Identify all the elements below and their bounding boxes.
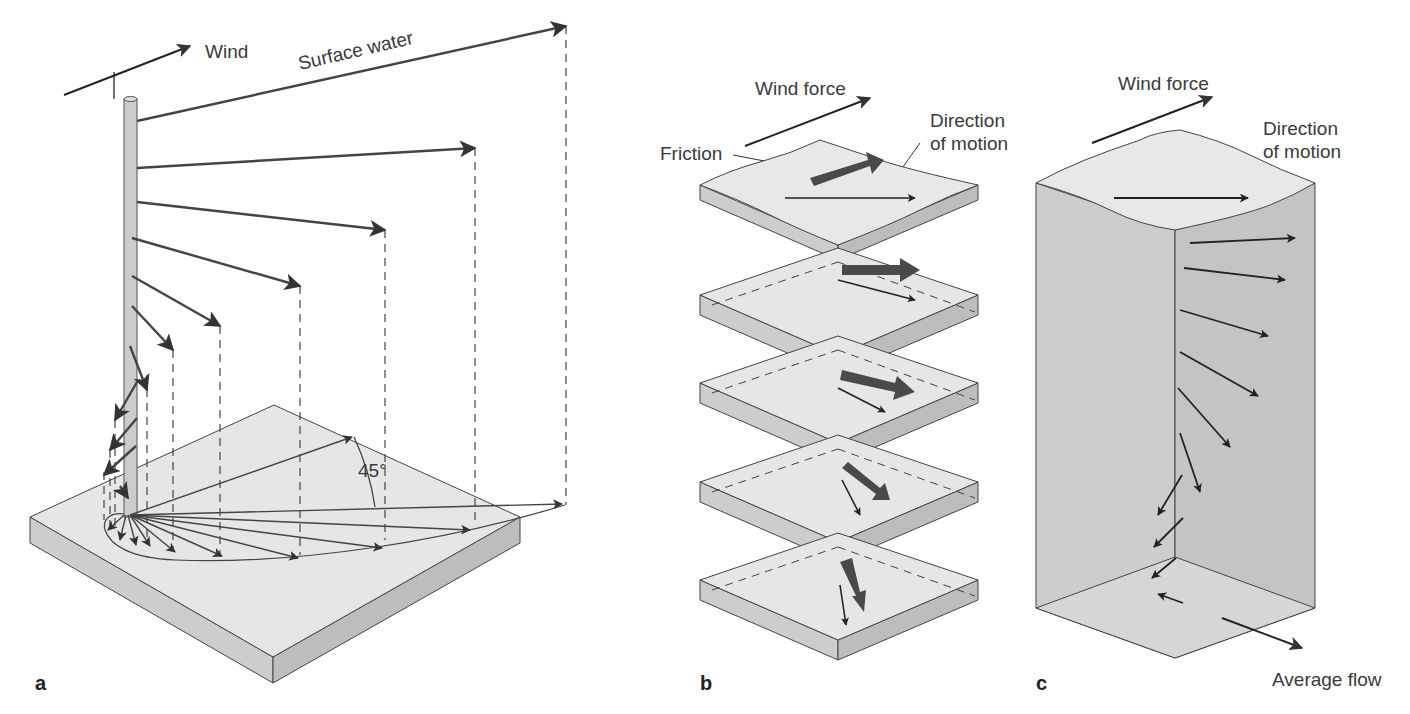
ekman-spiral-figure: Wind Surface water (0, 0, 1410, 714)
panel-letter-c: c (1036, 672, 1047, 694)
wind-arrow (64, 46, 190, 95)
wind-force-arrow-b (745, 98, 870, 146)
surface-water-label: Surface water (296, 27, 416, 74)
panel-c: Wind force Direction of motion Average f… (1036, 73, 1382, 694)
direction-label-b-1: Direction (930, 110, 1005, 131)
ocean-slab (30, 405, 520, 683)
panel-letter-b: b (700, 672, 712, 694)
wind-force-label-b: Wind force (755, 78, 846, 99)
panel-letter-a: a (35, 672, 47, 694)
layer-1 (700, 140, 978, 260)
panel-b: Wind force Friction Direction of motion (660, 78, 1008, 694)
direction-label-c-1: Direction (1263, 118, 1338, 139)
angle-label: 45° (358, 460, 387, 481)
wind-label: Wind (205, 41, 248, 62)
layer-5 (700, 533, 978, 660)
friction-label: Friction (660, 143, 722, 164)
direction-label-c-2: of motion (1263, 141, 1341, 162)
wind-force-label-c: Wind force (1118, 73, 1209, 94)
average-flow-label: Average flow (1272, 669, 1382, 690)
panel-a: Wind Surface water (30, 26, 566, 694)
direction-label-b-2: of motion (930, 133, 1008, 154)
